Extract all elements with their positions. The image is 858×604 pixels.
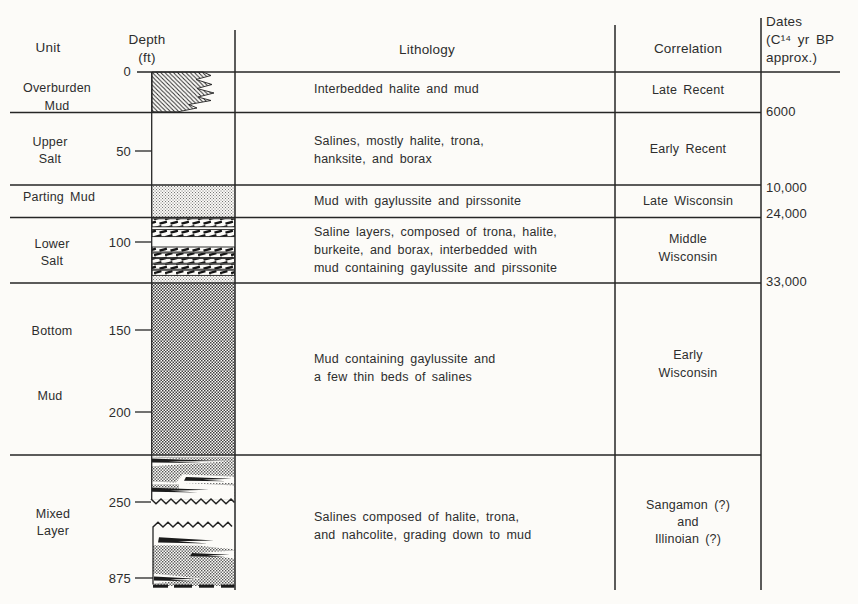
lithology-bottom-mud-line2: a few thin beds of salines: [314, 371, 472, 384]
correlation-column-header: Correlation: [654, 42, 722, 56]
unit-upper-salt-line1: Upper: [32, 136, 67, 149]
depth-label-250: 250: [109, 496, 131, 509]
lithology-upper-salt-line2: hanksite, and borax: [314, 153, 432, 166]
depth-label-0: 0: [124, 65, 131, 78]
wavy-break-upper: [151, 499, 235, 504]
date-24000: 24,000: [766, 207, 807, 220]
depth-label-100: 100: [109, 236, 131, 249]
unit-mixed-layer-line2: Layer: [37, 525, 69, 538]
lower-salt-bands: [152, 219, 235, 276]
unit-bottom-mud-line1: Bottom: [32, 325, 73, 338]
depth-tick-marks: [135, 151, 153, 578]
correlation-late-recent: Late Recent: [652, 84, 724, 97]
lithology-column-header: Lithology: [399, 43, 455, 57]
unit-mixed-layer-line1: Mixed: [36, 508, 70, 521]
lithology-mixed-layer-line2: and nahcolite, grading down to mud: [314, 529, 531, 542]
lithology-mixed-layer-line1: Salines composed of halite, trona,: [314, 511, 519, 524]
correlation-sangamon-line2: and: [677, 516, 698, 529]
bottom-mud-pattern: [152, 284, 235, 455]
correlation-sangamon-line3: Illinoian (?): [655, 533, 721, 546]
mixed-layer-upper-block: [151, 457, 235, 504]
correlation-early-wisconsin-line2: Wisconsin: [659, 367, 718, 380]
unit-overburden-mud-line2: Mud: [45, 100, 70, 113]
depth-label-150: 150: [109, 324, 131, 337]
depth-label-875: 875: [109, 572, 131, 585]
dates-column-header-line2: (C¹⁴ yr BP: [766, 33, 834, 47]
depth-column-header-units: (ft): [138, 51, 155, 65]
depth-column-header: Depth: [128, 33, 165, 47]
unit-column-header: Unit: [36, 41, 61, 55]
dates-column-header-line1: Dates: [766, 15, 802, 29]
correlation-late-wisconsin: Late Wisconsin: [643, 195, 733, 208]
lithology-bottom-mud-line1: Mud containing gaylussite and: [314, 353, 495, 366]
unit-overburden-mud-line1: Overburden: [23, 82, 91, 95]
mixed-layer-lower-block: [153, 522, 235, 587]
lithology-lower-salt-line3: mud containing gaylussite and pirssonite: [314, 262, 557, 275]
correlation-early-wisconsin-line1: Early: [673, 349, 702, 362]
unit-bottom-mud-line2: Mud: [38, 390, 63, 403]
date-33000: 33,000: [766, 275, 807, 288]
depth-label-50: 50: [116, 145, 131, 158]
stratigraphic-column-figure: Unit Depth (ft) Lithology Correlation Da…: [0, 0, 858, 604]
dates-column-header-line3: approx.): [766, 51, 817, 65]
depth-label-200: 200: [109, 406, 131, 419]
lithology-strip: [151, 72, 235, 588]
overburden-hatch-pattern: [152, 72, 214, 112]
unit-lower-salt-line1: Lower: [34, 238, 69, 251]
unit-parting-mud: Parting Mud: [23, 191, 95, 204]
lower-salt-mud-interbed: [152, 276, 235, 282]
lithology-upper-salt-line1: Salines, mostly halite, trona,: [314, 135, 484, 148]
lithology-lower-salt-line2: burkeite, and borax, interbedded with: [314, 244, 537, 257]
correlation-sangamon-line1: Sangamon (?): [646, 499, 730, 512]
lithology-parting-mud: Mud with gaylussite and pirssonite: [314, 195, 521, 208]
date-10000: 10,000: [766, 181, 807, 194]
correlation-middle-wisconsin-line1: Middle: [669, 233, 707, 246]
correlation-middle-wisconsin-line2: Wisconsin: [659, 251, 718, 264]
correlation-early-recent: Early Recent: [650, 143, 726, 156]
wavy-break-lower: [153, 522, 232, 527]
parting-mud-pattern: [152, 186, 235, 217]
unit-lower-salt-line2: Salt: [41, 255, 63, 268]
lithology-lower-salt-line1: Saline layers, composed of trona, halite…: [314, 226, 557, 239]
unit-upper-salt-line2: Salt: [39, 153, 61, 166]
lithology-overburden: Interbedded halite and mud: [314, 83, 479, 96]
date-6000: 6000: [766, 105, 796, 118]
